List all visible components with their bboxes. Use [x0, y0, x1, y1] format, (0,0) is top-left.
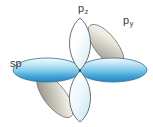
sp-lobe-left	[13, 58, 81, 82]
label-pz-text: p	[78, 2, 84, 14]
label-pz-subscript: z	[85, 8, 89, 15]
label-py-subscript: y	[130, 20, 134, 27]
nucleus-point	[79, 69, 81, 71]
orbital-diagram-figure: pz py sp	[0, 0, 153, 127]
sp-lobe-right	[79, 58, 147, 82]
label-py-text: p	[123, 14, 129, 26]
label-sp-text: sp	[10, 57, 22, 69]
label-pz: pz	[78, 3, 88, 14]
label-sp: sp	[10, 58, 22, 69]
label-py: py	[123, 15, 133, 26]
